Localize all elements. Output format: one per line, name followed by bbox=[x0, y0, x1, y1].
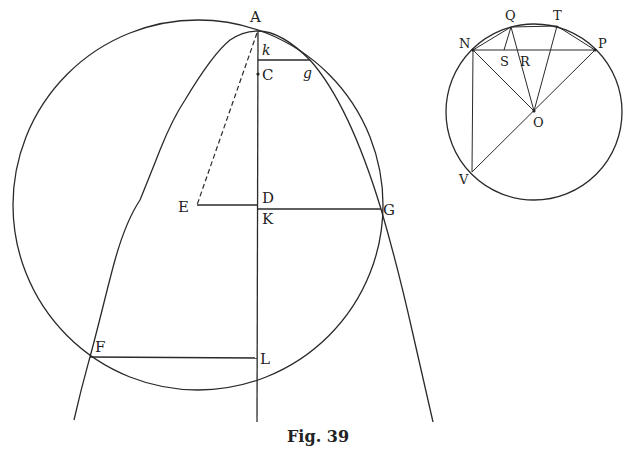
point-O-dot bbox=[532, 109, 535, 112]
chord-Q-T bbox=[511, 26, 557, 27]
segment-A-E-dashed bbox=[197, 33, 257, 205]
label-G: G bbox=[383, 201, 395, 219]
label-Q: Q bbox=[505, 8, 516, 23]
label-K: K bbox=[262, 210, 274, 228]
label-F: F bbox=[95, 338, 105, 356]
label-E: E bbox=[178, 198, 189, 216]
axis-line bbox=[257, 31, 258, 422]
label-T: T bbox=[553, 8, 562, 23]
point-C-dot bbox=[256, 72, 259, 75]
figure-canvas: A k g C E D K G F L N Q T P S R O V Fig. bbox=[0, 0, 624, 454]
label-V: V bbox=[458, 172, 469, 187]
label-L: L bbox=[260, 350, 270, 368]
label-A: A bbox=[249, 8, 261, 26]
chord-T-P bbox=[557, 26, 595, 50]
label-C: C bbox=[262, 66, 273, 84]
point-P-dot bbox=[593, 48, 596, 51]
right-diagram: N Q T P S R O V bbox=[446, 8, 622, 200]
label-N: N bbox=[459, 36, 470, 51]
label-R: R bbox=[520, 54, 531, 69]
figure-caption: Fig. 39 bbox=[287, 427, 349, 446]
left-diagram: A k g C E D K G F L bbox=[13, 8, 433, 422]
parabola bbox=[74, 31, 433, 422]
label-O: O bbox=[533, 115, 544, 130]
label-P: P bbox=[598, 36, 607, 51]
label-S: S bbox=[500, 54, 509, 69]
segment-T-O bbox=[534, 26, 557, 111]
label-D: D bbox=[262, 189, 274, 207]
label-g: g bbox=[303, 65, 312, 81]
label-k: k bbox=[262, 42, 270, 58]
segment-N-V bbox=[472, 50, 473, 172]
segment-Q-O bbox=[511, 27, 534, 111]
segment-F-L bbox=[90, 357, 257, 358]
point-N-dot bbox=[471, 48, 474, 51]
